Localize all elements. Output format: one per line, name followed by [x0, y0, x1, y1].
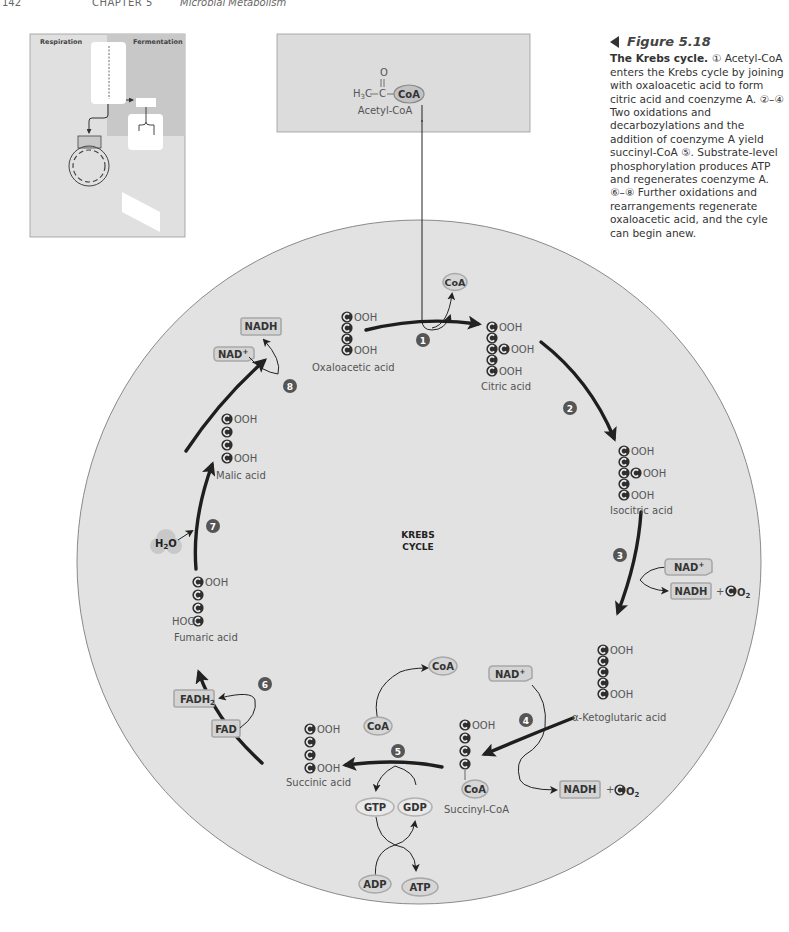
svg-text:OOH: OOH	[234, 414, 257, 425]
svg-text:OOH: OOH	[317, 724, 340, 735]
step-badge-8: 8	[287, 382, 293, 392]
acetyl-formula-o: O	[380, 67, 388, 78]
compound-name: Fumaric acid	[174, 632, 238, 643]
compound-name: Isocitric acid	[610, 505, 673, 516]
svg-text:HOO: HOO	[172, 616, 195, 627]
compound-name: Succinyl-CoA	[444, 804, 509, 815]
caption-body: ① Acetyl-CoA enters the Krebs cycle by j…	[610, 52, 784, 238]
back-triangle-icon	[610, 36, 619, 48]
thumbnail-fermentation-label: Fermentation	[133, 38, 183, 46]
step-badge-3: 3	[617, 551, 623, 561]
cycle-title-line2: CYCLE	[402, 542, 433, 552]
svg-text:OOH: OOH	[317, 763, 340, 774]
svg-text:OOH: OOH	[499, 322, 522, 333]
svg-text:OOH: OOH	[511, 344, 534, 355]
svg-text:OOH: OOH	[499, 366, 522, 377]
acetyl-coa-name: Acetyl-CoA	[358, 105, 413, 116]
atp-pill: ATP	[409, 882, 430, 893]
caption-lead: The Krebs cycle.	[610, 52, 712, 64]
svg-text:OOH: OOH	[631, 490, 654, 501]
step1-coa-pill: CoA	[445, 277, 466, 288]
gtp-pill: GTP	[364, 802, 386, 813]
figure-label: Figure 5.18	[627, 35, 711, 48]
cycle-title-line1: KREBS	[401, 530, 434, 540]
fad-pill: FAD	[215, 724, 237, 735]
step3-nadh-pill: NADH	[675, 586, 708, 597]
svg-text:OOH: OOH	[354, 345, 377, 356]
acetyl-formula-c: C	[379, 88, 386, 99]
step-badge-2: 2	[567, 404, 573, 414]
compound-name: Succinic acid	[286, 777, 351, 788]
svg-text:+: +	[606, 784, 614, 795]
compound-name: Malic acid	[216, 470, 266, 481]
step8-nadh-pill: NADH	[245, 321, 278, 332]
svg-text:OOH: OOH	[643, 468, 666, 479]
step-badge-6: 6	[262, 680, 268, 690]
step4-nadh-pill: NADH	[564, 784, 597, 795]
svg-text:OOH: OOH	[472, 720, 495, 731]
adp-pill: ADP	[363, 879, 386, 890]
acetyl-coa-box: O H3C C CoA Acetyl-CoA	[277, 34, 530, 132]
step-badge-5: 5	[395, 747, 401, 757]
compound-name: α-Ketoglutaric acid	[572, 712, 666, 723]
succinyl-coa-pill: CoA	[464, 784, 486, 795]
svg-text:OOH: OOH	[610, 689, 633, 700]
step-badge-4: 4	[523, 716, 529, 726]
svg-text:OOH: OOH	[354, 312, 377, 323]
figure-label-row: Figure 5.18	[610, 35, 785, 48]
step-badge-7: 7	[210, 522, 216, 532]
svg-text:OOH: OOH	[205, 577, 228, 588]
step5-coa-pill: CoA	[367, 721, 389, 732]
svg-text:+: +	[716, 586, 724, 597]
svg-text:OOH: OOH	[610, 645, 633, 656]
overview-thumbnail: Respiration Fermentation	[30, 34, 185, 237]
thumbnail-respiration-label: Respiration	[40, 38, 83, 46]
compound-name: Citric acid	[481, 381, 531, 392]
acetyl-coa-pill: CoA	[398, 89, 420, 100]
svg-text:OOH: OOH	[234, 453, 257, 464]
step5-coa-released-pill: CoA	[432, 661, 454, 672]
svg-text:OOH: OOH	[631, 446, 654, 457]
step-badge-1: 1	[420, 336, 426, 346]
compound-name: Oxaloacetic acid	[312, 362, 395, 373]
gdp-pill: GDP	[403, 802, 427, 813]
figure-caption: Figure 5.18 The Krebs cycle. ① Acetyl-Co…	[610, 35, 785, 240]
thumbnail-glycolysis-box	[91, 42, 126, 104]
